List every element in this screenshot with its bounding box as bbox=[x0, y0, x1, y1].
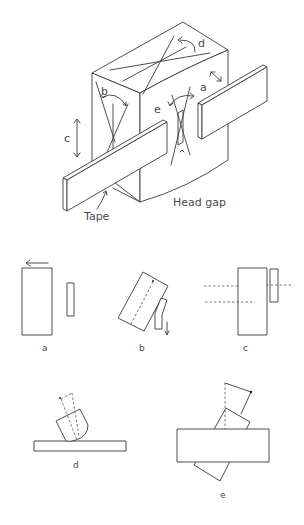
panel-c-head bbox=[238, 268, 267, 335]
panel-d-tape bbox=[34, 441, 126, 451]
label-c: c bbox=[64, 132, 70, 145]
label-head-gap: Head gap bbox=[173, 196, 226, 209]
tape-pointer-line bbox=[97, 192, 106, 209]
panel-a-tape bbox=[67, 283, 74, 316]
panel-d-caption: d bbox=[73, 460, 79, 470]
panel-a-head bbox=[22, 268, 52, 335]
panel-e-caption: e bbox=[220, 490, 226, 500]
label-a: a bbox=[200, 81, 207, 94]
head-alignment-diagram: d b e a c Tape Head gap bbox=[0, 0, 304, 525]
panel-a-caption: a bbox=[42, 343, 48, 353]
panel-a: a bbox=[22, 260, 74, 353]
label-tape: Tape bbox=[83, 210, 110, 223]
panel-e-tape bbox=[177, 429, 269, 462]
panel-c: c bbox=[204, 268, 292, 353]
label-e: e bbox=[154, 103, 161, 116]
panel-c-caption: c bbox=[243, 343, 248, 353]
panel-c-tape bbox=[270, 269, 278, 302]
panel-d: d bbox=[34, 393, 126, 470]
label-d: d bbox=[198, 37, 205, 50]
panel-d-head bbox=[56, 409, 88, 441]
panel-b-caption: b bbox=[139, 343, 145, 353]
panel-e: e bbox=[177, 383, 269, 500]
panel-b: b bbox=[118, 272, 169, 353]
label-b: b bbox=[101, 85, 108, 98]
